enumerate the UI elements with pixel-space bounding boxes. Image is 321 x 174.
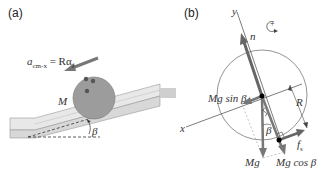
accel-eq-sub: z: [72, 62, 75, 70]
normal-force-label: n: [250, 30, 256, 42]
angle-label-a: β: [92, 125, 97, 137]
gravity-parallel-label: Mg sin β: [208, 92, 246, 104]
transition-arrow: [160, 88, 176, 98]
acceleration-equation: acm-x = Rαz: [27, 55, 74, 70]
friction-sub: s: [300, 145, 303, 153]
contact-point: [277, 138, 282, 143]
accel-sub: cm-x: [33, 62, 47, 70]
coordinate-axes: [186, 12, 302, 140]
angle-label-b: β: [266, 124, 271, 136]
accel-eq: = Rα: [47, 55, 72, 67]
x-axis-label: x: [180, 122, 185, 134]
center-of-mass-point: [260, 94, 265, 99]
friction-label: fs: [297, 138, 303, 153]
normal-force-arrow: [240, 33, 262, 96]
mass-label: M: [58, 95, 67, 107]
radius-label: R: [296, 96, 303, 108]
y-axis-label: y: [232, 5, 237, 17]
bowling-ball: [73, 77, 115, 119]
panel-a-label: (a): [8, 6, 23, 20]
gravity-label: Mg: [245, 156, 260, 168]
gravity-perpendicular-label: Mg cos β: [276, 156, 316, 168]
rotation-sign: +: [270, 19, 275, 28]
panel-b-label: (b): [184, 6, 199, 20]
